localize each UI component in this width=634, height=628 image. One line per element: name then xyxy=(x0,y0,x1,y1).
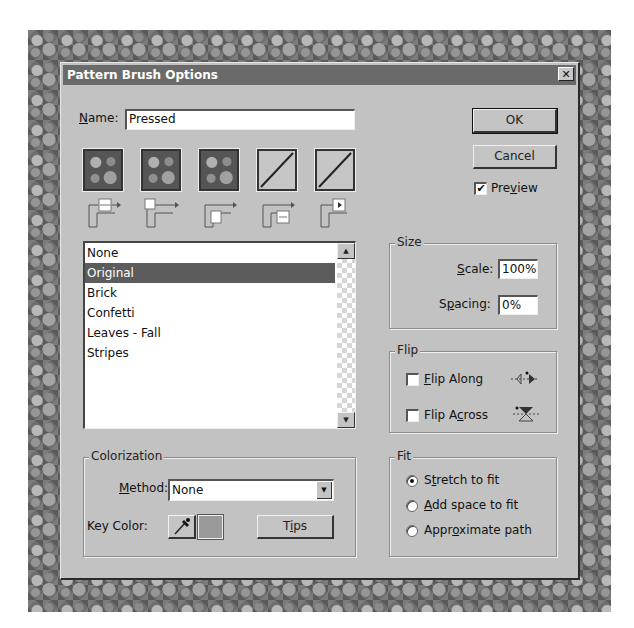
eyedropper-icon xyxy=(171,516,193,536)
colorization-group xyxy=(83,457,356,557)
list-item[interactable]: Confetti xyxy=(85,303,355,323)
close-icon: ✕ xyxy=(561,68,570,81)
name-input[interactable]: Pressed xyxy=(125,109,355,130)
start-tile-icon xyxy=(259,197,299,229)
outer-corner-tile-icon xyxy=(143,197,183,229)
add-space-to-fit-radio[interactable] xyxy=(406,500,418,512)
approximate-path-label[interactable]: Approximate path xyxy=(424,523,532,537)
name-label: Name: xyxy=(79,111,118,125)
scroll-down-button[interactable]: ▼ xyxy=(337,412,355,428)
ok-button[interactable]: OK xyxy=(473,109,557,133)
scale-label: Scale: xyxy=(457,262,493,276)
stretch-to-fit-label[interactable]: Stretch to fit xyxy=(424,473,499,487)
end-tile-icon xyxy=(317,197,357,229)
inner-corner-tile-icon xyxy=(201,197,241,229)
method-value: None xyxy=(172,483,203,497)
list-item[interactable]: None xyxy=(85,243,355,263)
colorization-group-title: Colorization xyxy=(89,449,164,463)
flip-across-icon xyxy=(509,403,541,425)
flip-along-icon xyxy=(509,369,541,389)
size-group xyxy=(389,243,557,329)
key-color-label: Key Color: xyxy=(87,519,148,533)
add-space-to-fit-label[interactable]: Add space to fit xyxy=(424,498,518,512)
diagonal-line-icon xyxy=(317,151,353,189)
dropdown-arrow-icon[interactable]: ▼ xyxy=(317,482,332,499)
close-button[interactable]: ✕ xyxy=(558,67,574,81)
list-scrollbar[interactable]: ▲ ▼ xyxy=(337,243,355,428)
check-icon: ✔ xyxy=(476,182,485,195)
approximate-path-radio[interactable] xyxy=(406,525,418,537)
side-tile-icon xyxy=(85,197,125,229)
flip-across-label[interactable]: Flip Across xyxy=(424,408,488,422)
diagonal-line-icon xyxy=(259,151,295,189)
dialog-title: Pattern Brush Options xyxy=(67,68,218,82)
pattern-brush-options-dialog: Pattern Brush Options ✕ Name: Pressed OK… xyxy=(60,62,580,580)
title-bar[interactable]: Pattern Brush Options ✕ xyxy=(63,65,576,85)
flip-along-checkbox[interactable] xyxy=(406,373,419,386)
flip-along-label[interactable]: Flip Along xyxy=(424,372,483,386)
inner-corner-tile-button[interactable] xyxy=(199,149,239,191)
eyedropper-button[interactable] xyxy=(168,515,196,539)
flip-across-checkbox[interactable] xyxy=(406,409,419,422)
method-label: Method: xyxy=(119,481,168,495)
list-item[interactable]: Leaves - Fall xyxy=(85,323,355,343)
stretch-to-fit-radio[interactable] xyxy=(406,475,418,487)
start-tile-button[interactable] xyxy=(257,149,297,191)
cancel-button[interactable]: Cancel xyxy=(473,145,557,169)
scroll-up-button[interactable]: ▲ xyxy=(337,243,355,259)
method-dropdown[interactable]: None ▼ xyxy=(168,479,334,501)
scale-input[interactable]: 100% xyxy=(498,259,538,279)
tips-button[interactable]: Tips xyxy=(257,515,334,539)
pattern-listbox[interactable]: None Original Brick Confetti Leaves - Fa… xyxy=(83,241,356,429)
scroll-up-icon: ▲ xyxy=(343,247,348,255)
outer-corner-tile-button[interactable] xyxy=(141,149,181,191)
scroll-down-icon: ▼ xyxy=(343,416,348,424)
spacing-input[interactable]: 0% xyxy=(498,295,538,315)
end-tile-button[interactable] xyxy=(315,149,355,191)
list-item[interactable]: Stripes xyxy=(85,343,355,363)
size-group-title: Size xyxy=(395,235,424,249)
side-tile-button[interactable] xyxy=(83,149,123,191)
list-item-selected[interactable]: Original xyxy=(85,263,335,283)
list-item[interactable]: Brick xyxy=(85,283,355,303)
fit-group-title: Fit xyxy=(395,449,413,463)
flip-group-title: Flip xyxy=(395,343,420,357)
spacing-label: Spacing: xyxy=(439,297,491,311)
preview-checkbox[interactable]: ✔ xyxy=(474,182,487,195)
key-color-swatch[interactable] xyxy=(198,515,223,539)
preview-label[interactable]: Preview xyxy=(491,181,538,195)
